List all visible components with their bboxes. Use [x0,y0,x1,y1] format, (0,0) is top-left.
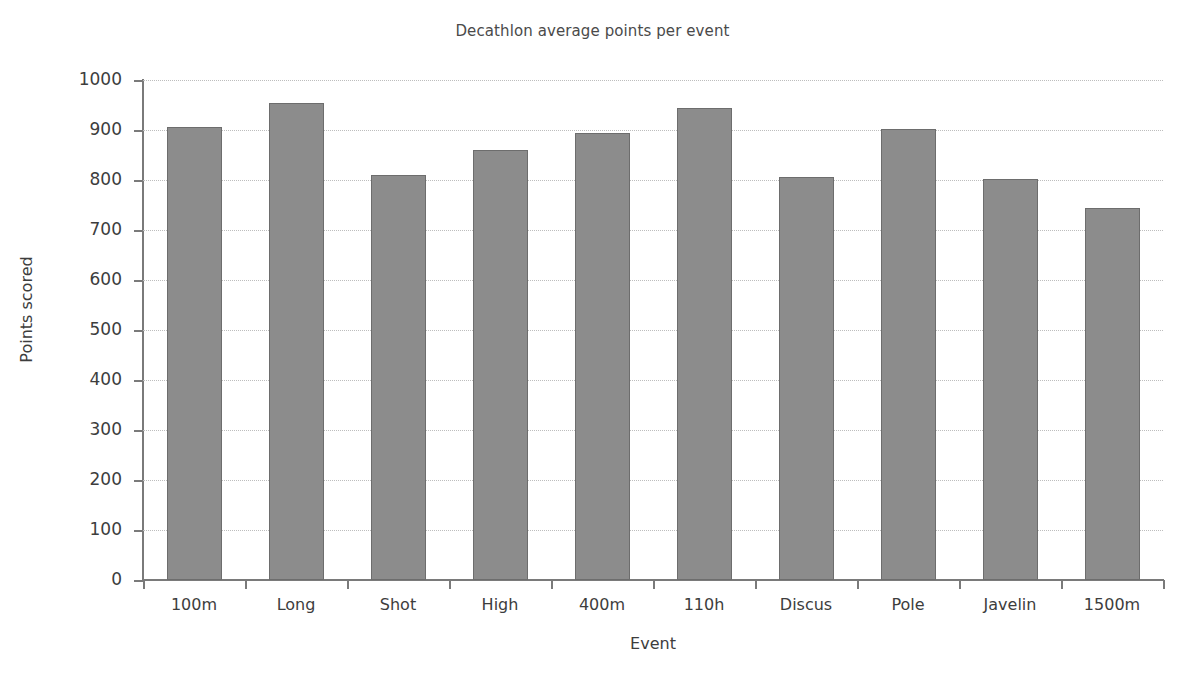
x-axis-tick [755,580,757,589]
y-axis-tick [134,530,143,532]
y-axis-tick [134,330,143,332]
bar [1085,208,1140,581]
y-axis-tick [134,80,143,82]
y-axis-tick-label: 600 [2,269,122,289]
x-axis-label: Event [143,634,1163,653]
y-axis-tick [134,230,143,232]
y-axis-tick-label: 0 [2,569,122,589]
bar-chart-figure: Decathlon average points per event Point… [0,0,1185,692]
y-axis-tick-label: 800 [2,169,122,189]
y-axis-tick [134,180,143,182]
y-axis-tick-label: 100 [2,519,122,539]
x-axis-tick-label: 1500m [1052,595,1172,614]
x-axis-tick [959,580,961,589]
y-axis-tick-label: 300 [2,419,122,439]
bar [983,179,1038,580]
y-axis-tick [134,430,143,432]
x-axis-tick [857,580,859,589]
chart-title: Decathlon average points per event [0,22,1185,40]
plot-area [143,80,1163,580]
y-axis-tick-label: 500 [2,319,122,339]
x-axis-tick [449,580,451,589]
y-axis-tick [134,130,143,132]
bar [881,129,936,581]
y-axis-tick [134,380,143,382]
bar [167,127,222,580]
bar [473,150,528,581]
y-axis-label: Points scored [17,240,36,380]
x-axis-tick [551,580,553,589]
y-axis-tick [134,280,143,282]
bar [575,133,630,581]
y-axis-tick-label: 200 [2,469,122,489]
y-axis-tick-label: 900 [2,119,122,139]
gridline [143,80,1163,81]
bar [779,177,834,581]
x-axis-tick [245,580,247,589]
y-axis-tick-label: 700 [2,219,122,239]
y-axis-tick-label: 400 [2,369,122,389]
x-axis-tick [1163,580,1165,589]
x-axis-tick [143,580,145,589]
y-axis-tick-label: 1000 [2,69,122,89]
bar [677,108,732,580]
bar [269,103,324,580]
x-axis-tick [653,580,655,589]
x-axis-tick [1061,580,1063,589]
y-axis-tick [134,580,143,582]
bar [371,175,426,580]
y-axis-tick [134,480,143,482]
x-axis-tick [347,580,349,589]
